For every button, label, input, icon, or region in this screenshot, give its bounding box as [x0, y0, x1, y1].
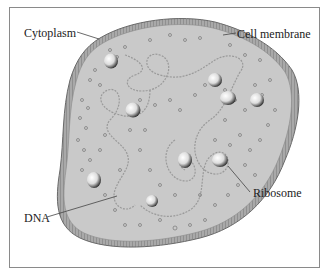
label-ribosome: Ribosome: [253, 186, 302, 201]
label-cell-membrane: Cell membrane: [237, 27, 311, 42]
ribosome: [250, 93, 264, 107]
ribosome: [104, 54, 118, 69]
ribosome: [212, 153, 228, 167]
ribosome: [220, 91, 236, 105]
ribosome: [126, 103, 141, 118]
ribosome: [146, 195, 158, 207]
label-dna: DNA: [24, 211, 50, 226]
ribosome: [208, 73, 222, 87]
cytoplasm-region: [64, 24, 292, 241]
ribosome: [87, 172, 101, 188]
label-cytoplasm: Cytoplasm: [24, 26, 76, 41]
ribosome: [178, 152, 192, 168]
